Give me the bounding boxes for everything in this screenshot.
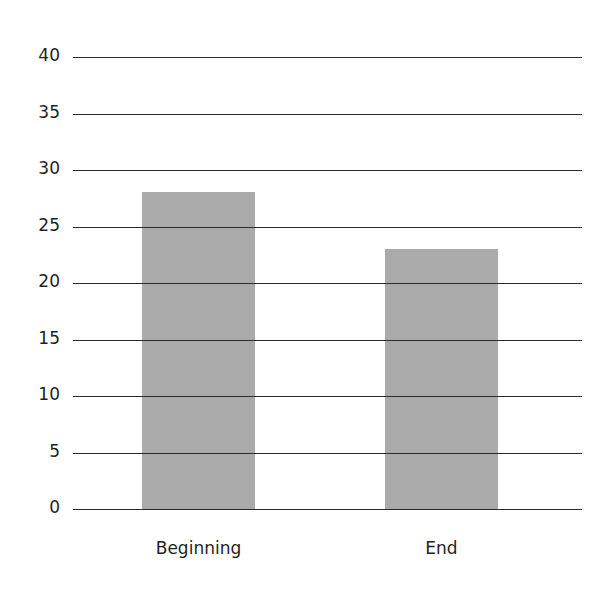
- gridline: [73, 453, 582, 454]
- x-tick-label: End: [365, 538, 518, 558]
- gridline: [73, 509, 582, 510]
- bar-end: [385, 249, 498, 510]
- bar-chart: 0510152025303540 BeginningEnd: [0, 0, 610, 589]
- x-tick-label: Beginning: [122, 538, 275, 558]
- gridline: [73, 227, 582, 228]
- y-tick-label: 15: [0, 328, 60, 348]
- gridline: [73, 340, 582, 341]
- y-tick-label: 30: [0, 158, 60, 178]
- gridline: [73, 396, 582, 397]
- y-tick-label: 20: [0, 271, 60, 291]
- gridline: [73, 57, 582, 58]
- bar-beginning: [142, 192, 255, 510]
- y-tick-label: 5: [0, 441, 60, 461]
- gridline: [73, 283, 582, 284]
- gridline: [73, 114, 582, 115]
- y-tick-label: 0: [0, 497, 60, 517]
- y-tick-label: 40: [0, 45, 60, 65]
- y-tick-label: 10: [0, 384, 60, 404]
- gridline: [73, 170, 582, 171]
- y-tick-label: 35: [0, 102, 60, 122]
- y-tick-label: 25: [0, 215, 60, 235]
